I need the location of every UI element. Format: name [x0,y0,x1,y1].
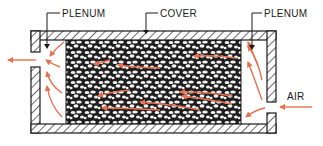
cover [31,31,276,40]
label-air: AIR [287,91,305,102]
label-plenum-left: PLENUM [62,8,105,19]
left-wall-lower [31,67,40,133]
rock-bed-storage-diagram: PLENUM COVER PLENUM AIR [0,0,323,146]
right-wall-upper [267,31,276,102]
right-wall-lower [267,113,276,133]
rock-bed [66,40,241,124]
base [31,124,276,133]
left-wall-upper [31,31,40,52]
label-cover: COVER [160,8,197,19]
label-plenum-right: PLENUM [264,8,307,19]
